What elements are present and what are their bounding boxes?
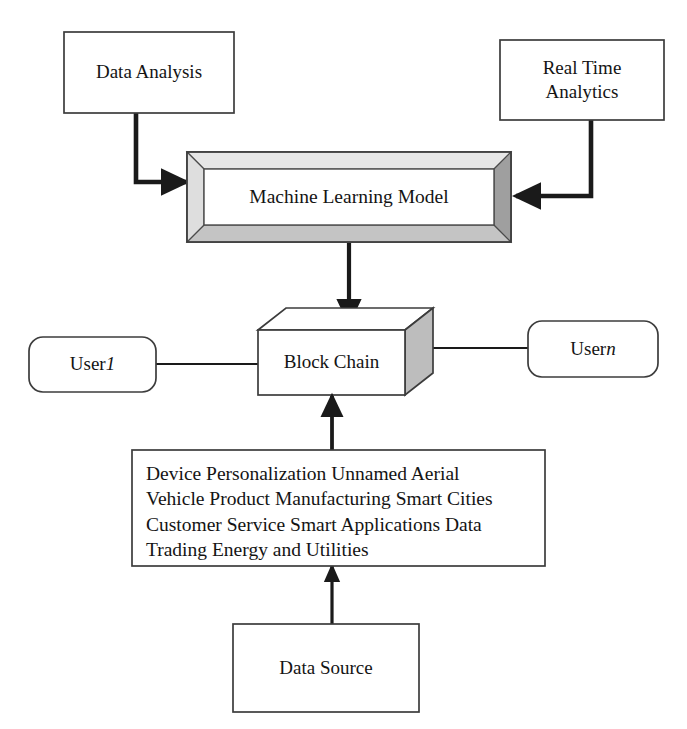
node-block-chain[interactable] xyxy=(258,308,433,395)
connector-data-analysis-to-ml xyxy=(136,113,186,182)
node-real-time-analytics-shape[interactable] xyxy=(500,40,664,120)
connector-real-time-analytics-to-ml xyxy=(516,120,591,196)
node-user-first-shape[interactable] xyxy=(29,337,156,392)
node-applications-shape[interactable] xyxy=(132,450,545,566)
node-user-nth-shape[interactable] xyxy=(528,321,658,377)
diagram-graphics-layer xyxy=(0,0,687,729)
node-data-analysis-shape[interactable] xyxy=(64,32,234,113)
node-machine-learning-model[interactable] xyxy=(187,152,511,242)
diagram-canvas: Data Analysis Real Time Analytics Machin… xyxy=(0,0,687,729)
node-data-source-shape[interactable] xyxy=(233,624,419,712)
